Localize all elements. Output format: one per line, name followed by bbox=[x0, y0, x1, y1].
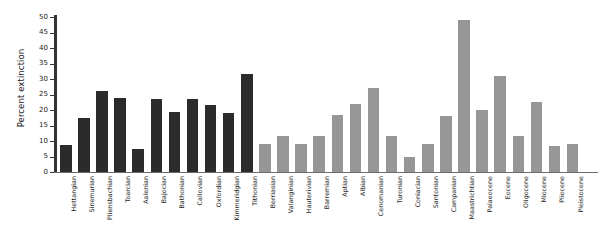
x-axis-tick-label: Kimmeridgian bbox=[232, 176, 242, 236]
y-axis-tick-label: 20 bbox=[28, 107, 48, 114]
x-axis-tick-label: Coniacian bbox=[413, 176, 423, 236]
y-axis-tick bbox=[50, 157, 54, 158]
x-axis-tick-label: Bathonian bbox=[177, 176, 187, 236]
bar bbox=[567, 144, 579, 172]
bar bbox=[114, 98, 126, 172]
y-axis-tick bbox=[50, 64, 54, 65]
bar bbox=[277, 136, 289, 172]
bar bbox=[295, 144, 307, 172]
bar bbox=[549, 146, 561, 172]
x-axis-tick-label: Callovian bbox=[195, 176, 205, 236]
x-axis-tick-label: Turonian bbox=[395, 176, 405, 236]
bar bbox=[350, 104, 362, 172]
extinction-bar-chart: Percent extinction 51015202530354045500 … bbox=[0, 0, 610, 236]
bar bbox=[368, 88, 380, 172]
plot-area bbox=[57, 14, 597, 172]
bar bbox=[151, 99, 163, 172]
x-axis-tick-label: Pliocene bbox=[557, 176, 567, 236]
y-axis-tick-label: 50 bbox=[28, 14, 48, 21]
x-axis-tick-label: Pleistocene bbox=[576, 176, 586, 236]
x-axis-tick-label: Cenomanian bbox=[376, 176, 386, 236]
y-axis-title: Percent extinction bbox=[14, 0, 28, 175]
bar bbox=[313, 136, 325, 172]
x-axis-tick-label: Albian bbox=[358, 176, 368, 236]
bar bbox=[332, 115, 344, 172]
x-axis-tick-label: Santonian bbox=[431, 176, 441, 236]
y-axis-tick-label: 5 bbox=[28, 153, 48, 160]
y-axis-tick bbox=[50, 33, 54, 34]
y-axis-tick bbox=[50, 17, 54, 18]
y-axis-tick bbox=[50, 110, 54, 111]
x-axis-tick-label: Berriasian bbox=[268, 176, 278, 236]
bar bbox=[60, 145, 72, 172]
y-axis-tick bbox=[50, 79, 54, 80]
bar bbox=[169, 112, 181, 172]
bar bbox=[78, 118, 90, 172]
x-axis-tick-label: Aalenian bbox=[141, 176, 151, 236]
bar bbox=[223, 113, 235, 172]
y-axis-tick bbox=[50, 141, 54, 142]
bar bbox=[422, 144, 434, 172]
x-axis-tick-label: Oxfordian bbox=[214, 176, 224, 236]
bar bbox=[404, 157, 416, 173]
y-axis-tick bbox=[50, 95, 54, 96]
y-axis-tick-label: 25 bbox=[28, 91, 48, 98]
x-axis-tick-label: Valanginian bbox=[286, 176, 296, 236]
bar bbox=[494, 76, 506, 172]
bar bbox=[241, 74, 253, 172]
y-axis-tick-label: 30 bbox=[28, 76, 48, 83]
y-axis-tick bbox=[50, 126, 54, 127]
bar bbox=[458, 20, 470, 172]
bar bbox=[259, 144, 271, 172]
x-axis-tick-label: Palaeocene bbox=[485, 176, 495, 236]
x-axis-tick-label: Tithonian bbox=[250, 176, 260, 236]
bar bbox=[386, 136, 398, 172]
x-axis-tick-label: Aptian bbox=[340, 176, 350, 236]
y-axis-tick bbox=[50, 48, 54, 49]
y-axis-title-text: Percent extinction bbox=[16, 48, 26, 127]
y-axis-tick-label: 0 bbox=[28, 169, 48, 176]
x-axis-tick-label: Miocene bbox=[539, 176, 549, 236]
x-axis-line bbox=[54, 172, 598, 173]
bar bbox=[187, 99, 199, 172]
y-axis-tick-label: 40 bbox=[28, 45, 48, 52]
bar bbox=[96, 91, 108, 172]
x-axis-tick-label: Bajocian bbox=[159, 176, 169, 236]
y-axis-tick-label: 10 bbox=[28, 138, 48, 145]
y-axis-tick-label: 35 bbox=[28, 60, 48, 67]
x-axis-tick-label: Oligocene bbox=[521, 176, 531, 236]
x-axis-tick-label: Hauterivian bbox=[304, 176, 314, 236]
x-axis-tick-label: Toarcian bbox=[123, 176, 133, 236]
bar bbox=[531, 102, 543, 172]
x-axis-tick-label: Sinemurian bbox=[87, 176, 97, 236]
x-axis-tick-label: Pliensbachian bbox=[105, 176, 115, 236]
x-axis-tick-label: Hettangian bbox=[69, 176, 79, 236]
bar bbox=[513, 136, 525, 172]
x-axis-tick-label: Eocene bbox=[503, 176, 513, 236]
bar bbox=[132, 149, 144, 172]
bar bbox=[440, 116, 452, 172]
x-axis-tick-label: Campanian bbox=[449, 176, 459, 236]
x-axis-tick-label: Maastrichtian bbox=[467, 176, 477, 236]
y-axis-tick-label: 15 bbox=[28, 122, 48, 129]
x-axis-tick-label: Barremian bbox=[322, 176, 332, 236]
bar bbox=[476, 110, 488, 172]
y-axis-tick-label: 45 bbox=[28, 29, 48, 36]
bar bbox=[205, 105, 217, 172]
